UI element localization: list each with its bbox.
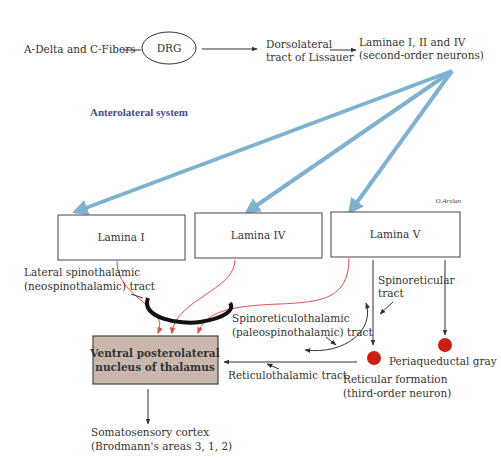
reticular-label-2: (third-order neuron) bbox=[343, 387, 451, 399]
blue-arrow-to-lamina-1 bbox=[75, 71, 452, 212]
spinoreticulothalamic-label-2: (paleospinothalamic) tract bbox=[232, 326, 373, 338]
spinoreticulothalamic-pointer bbox=[326, 337, 336, 345]
reticulothalamic-label: Reticulothalamic tract bbox=[228, 369, 348, 381]
cortex-label-2: (Brodmann's areas 3, 1, 2) bbox=[91, 440, 232, 452]
fibers-label: A-Delta and C-Fibers bbox=[23, 43, 136, 55]
vpl-label-2: nucleus of thalamus bbox=[95, 361, 215, 373]
pag-dot bbox=[438, 338, 452, 352]
lamina-5-label: Lamina V bbox=[370, 228, 421, 240]
lateral-spinothalamic-label-1: Lateral spinothalamic bbox=[24, 266, 140, 278]
laminae-label-2: (second-order neurons) bbox=[359, 49, 484, 61]
lamina-4-label: Lamina IV bbox=[231, 229, 286, 241]
tract-bundle-arc bbox=[147, 298, 231, 323]
reticular-formation-dot bbox=[367, 351, 381, 365]
vpl-thalamus-box bbox=[93, 336, 218, 384]
lissauer-label-2: tract of Lissauer bbox=[266, 51, 355, 63]
spinoreticulothalamic-label-1: Spinoreticulothalamic bbox=[232, 312, 350, 324]
drg-label: DRG bbox=[157, 42, 182, 54]
anterolateral-system-diagram: A-Delta and C-Fibers DRG Dorsolateral tr… bbox=[0, 0, 501, 468]
spinoreticular-label-2: tract bbox=[378, 287, 404, 299]
spinoreticular-label-1: Spinoreticular bbox=[378, 274, 455, 286]
reticular-label-1: Reticular formation bbox=[343, 373, 448, 385]
laminae-label-1: Laminae I, II and IV bbox=[359, 36, 466, 48]
lamina-1-label: Lamina I bbox=[97, 231, 144, 243]
pag-label: Periaqueductal gray bbox=[389, 355, 497, 367]
lateral-spinothalamic-label-2: (neospinothalamic) tract bbox=[24, 280, 156, 292]
vpl-label-1: Ventral posterolateral bbox=[89, 347, 219, 359]
signature: O.Arslan bbox=[436, 197, 462, 205]
lissauer-label-1: Dorsolateral bbox=[266, 38, 333, 50]
diagram-title: Anterolateral system bbox=[90, 106, 188, 118]
blue-arrow-to-lamina-4 bbox=[247, 71, 452, 212]
spinoreticular-pointer bbox=[380, 302, 393, 314]
cortex-label-1: Somatosensory cortex bbox=[91, 426, 209, 438]
